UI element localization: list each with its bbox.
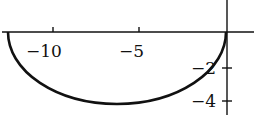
y-tick-label-minus4: −4 (191, 91, 216, 111)
x-tick-label-minus5: −5 (119, 41, 144, 61)
chart: −10 −5 −2 −4 (0, 0, 254, 117)
x-tick-label-minus10: −10 (26, 41, 62, 61)
